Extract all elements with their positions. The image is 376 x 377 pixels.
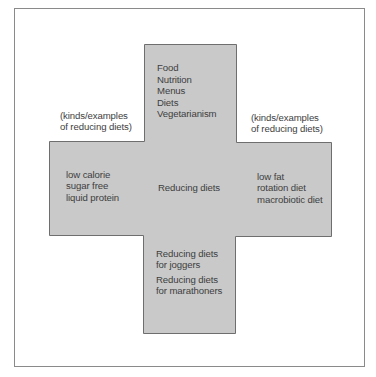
example-term: macrobiotic diet [257,194,323,205]
narrower-term: Reducing diets for marathoners [156,274,222,297]
broader-term: Diets [157,97,217,109]
broader-term: Menus [157,85,217,97]
example-term: low fat [257,171,323,182]
example-term: rotation diet [257,182,323,193]
left-annotation: (kinds/examples of reducing diets) [60,110,132,132]
bottom-arm-narrower-terms: Reducing diets for joggers Reducing diet… [156,248,222,299]
top-arm-broader-terms: Food Nutrition Menus Diets Vegetarianism [157,62,217,120]
broader-term: Vegetarianism [157,108,217,120]
broader-term: Food [157,62,217,74]
example-term: sugar free [66,180,119,191]
center-topic: Reducing diets [158,182,220,194]
example-term: low calorie [66,169,119,180]
left-arm-examples: low calorie sugar free liquid protein [66,169,119,203]
right-annotation: (kinds/examples of reducing diets) [251,112,323,134]
example-term: liquid protein [66,192,119,203]
narrower-term: Reducing diets for joggers [156,248,222,271]
broader-term: Nutrition [157,74,217,86]
right-arm-examples: low fat rotation diet macrobiotic diet [257,171,323,205]
